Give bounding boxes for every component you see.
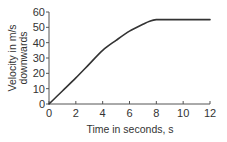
y-tick-label: 60 — [33, 6, 45, 18]
y-axis-ticks: 0102030405060 — [33, 6, 49, 110]
y-tick-label: 40 — [33, 37, 45, 49]
x-tick-label: 8 — [153, 107, 159, 119]
y-tick-label: 0 — [39, 98, 45, 110]
y-tick-label: 30 — [33, 52, 45, 64]
series-line-velocity — [49, 20, 210, 104]
y-tick-label: 10 — [33, 83, 45, 95]
x-tick-label: 10 — [177, 107, 189, 119]
x-tick-label: 6 — [126, 107, 132, 119]
x-tick-label: 0 — [46, 107, 52, 119]
x-tick-label: 2 — [73, 107, 79, 119]
y-axis-title-line-2: downwards — [17, 31, 29, 84]
y-tick-label: 50 — [33, 21, 45, 33]
x-axis-title: Time in seconds, s — [86, 123, 173, 135]
x-tick-label: 4 — [100, 107, 106, 119]
series-group — [49, 20, 210, 104]
chart: Velocity in m/s downwards 0102030405060 … — [0, 0, 227, 142]
x-tick-label: 12 — [204, 107, 216, 119]
y-axis-title: Velocity in m/s downwards — [6, 24, 29, 91]
y-tick-label: 20 — [33, 67, 45, 79]
